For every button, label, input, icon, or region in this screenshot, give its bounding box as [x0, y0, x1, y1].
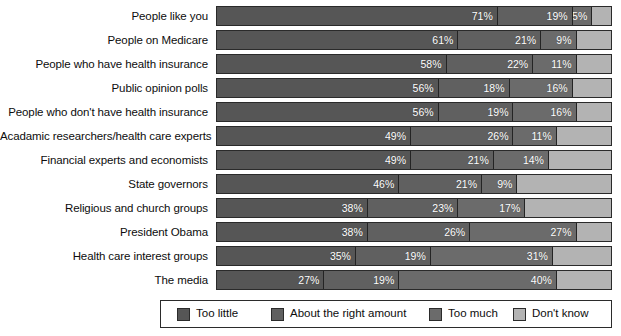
stacked-bar-chart: People like you71%19%5%People on Medicar… — [0, 0, 621, 336]
bar-segment: 56% — [217, 79, 438, 97]
bar-segment: 22% — [446, 55, 533, 73]
chart-row: People who don't have health insurance56… — [0, 100, 621, 124]
chart-row: People who have health insurance58%22%11… — [0, 52, 621, 76]
bar-segment-value: 9% — [556, 35, 575, 46]
bar-segment-value: 27% — [551, 227, 576, 238]
bar-segment — [576, 103, 611, 121]
row-category-label: Acadamic researchers/health care experts — [0, 124, 208, 148]
bar-segment-value: 21% — [515, 35, 540, 46]
bar-segment: 11% — [512, 127, 555, 145]
bar-segment-value: 21% — [468, 155, 493, 166]
chart-row: Acadamic researchers/health care experts… — [0, 124, 621, 148]
bar-segment-value: 61% — [432, 35, 457, 46]
bar-segment-value: 35% — [330, 251, 355, 262]
bar-segment: 16% — [509, 79, 572, 97]
bar-segment-value: 56% — [413, 107, 438, 118]
chart-plot-area: People like you71%19%5%People on Medicar… — [0, 4, 621, 292]
bar-segment-value: 22% — [507, 59, 532, 70]
legend-item[interactable]: About the right amount — [271, 301, 406, 327]
bar-segment: 58% — [217, 55, 446, 73]
bar-segment-value: 40% — [531, 275, 556, 286]
bar-segment-value: 49% — [385, 131, 410, 142]
bar-segment — [556, 271, 611, 289]
row-category-label: State governors — [0, 172, 208, 196]
bar-segment: 19% — [355, 247, 430, 265]
stacked-bar: 38%26%27% — [216, 222, 612, 242]
legend-swatch-icon — [271, 308, 284, 321]
bar-segment-value: 19% — [373, 275, 398, 286]
bar-segment-value: 49% — [385, 155, 410, 166]
bar-segment-value: 11% — [532, 131, 556, 142]
bar-segment-value: 38% — [342, 203, 367, 214]
bar-segment: 38% — [217, 199, 367, 217]
row-category-label: Financial experts and economists — [0, 148, 208, 172]
legend-label: Too little — [196, 308, 238, 320]
bar-segment: 21% — [457, 31, 540, 49]
bar-segment: 19% — [438, 103, 513, 121]
bar-segment-value: 19% — [487, 107, 512, 118]
bar-segment-value: 17% — [499, 203, 524, 214]
bar-segment — [591, 7, 611, 25]
legend-item[interactable]: Too much — [429, 301, 498, 327]
bar-segment: 18% — [438, 79, 509, 97]
bar-segment: 38% — [217, 223, 367, 241]
bar-segment — [576, 55, 611, 73]
bar-segment: 56% — [217, 103, 438, 121]
bar-segment — [576, 223, 611, 241]
bar-segment-value: 21% — [456, 179, 481, 190]
bar-segment-value: 27% — [298, 275, 323, 286]
chart-row: People on Medicare61%21%9% — [0, 28, 621, 52]
bar-segment-value: 9% — [497, 179, 516, 190]
stacked-bar: 35%19%31% — [216, 246, 612, 266]
bar-segment: 21% — [410, 151, 493, 169]
bar-segment-value: 38% — [342, 227, 367, 238]
bar-segment: 40% — [398, 271, 556, 289]
row-category-label: Public opinion polls — [0, 76, 208, 100]
stacked-bar: 56%18%16% — [216, 78, 612, 98]
bar-segment: 61% — [217, 31, 457, 49]
row-category-label: Religious and church groups — [0, 196, 208, 220]
chart-row: People like you71%19%5% — [0, 4, 621, 28]
stacked-bar: 49%26%11% — [216, 126, 612, 146]
bar-segment-value: 5% — [572, 11, 591, 22]
stacked-bar: 49%21%14% — [216, 150, 612, 170]
chart-row: The media27%19%40% — [0, 268, 621, 292]
bar-segment: 17% — [457, 199, 524, 217]
bar-segment-value: 19% — [405, 251, 430, 262]
bar-segment: 71% — [217, 7, 497, 25]
bar-segment: 19% — [323, 271, 398, 289]
bar-segment — [524, 199, 611, 217]
legend-item[interactable]: Too little — [177, 301, 238, 327]
stacked-bar: 38%23%17% — [216, 198, 612, 218]
legend-item[interactable]: Don't know — [513, 301, 589, 327]
bar-segment — [576, 31, 611, 49]
row-category-label: People like you — [0, 4, 208, 28]
bar-segment-value: 26% — [444, 227, 469, 238]
chart-legend: Too littleAbout the right amountToo much… — [160, 300, 612, 328]
bar-segment-value: 14% — [523, 155, 548, 166]
bar-segment-value: 19% — [547, 11, 572, 22]
bar-segment-value: 16% — [547, 83, 572, 94]
bar-segment: 16% — [512, 103, 575, 121]
bar-segment: 9% — [540, 31, 575, 49]
stacked-bar: 56%19%16% — [216, 102, 612, 122]
bar-segment — [548, 151, 611, 169]
stacked-bar: 58%22%11% — [216, 54, 612, 74]
bar-segment: 49% — [217, 127, 410, 145]
bar-segment-value: 18% — [484, 83, 509, 94]
bar-segment: 19% — [497, 7, 572, 25]
bar-segment: 26% — [367, 223, 469, 241]
legend-swatch-icon — [177, 308, 190, 321]
bar-segment: 14% — [493, 151, 548, 169]
bar-segment — [516, 175, 611, 193]
bar-segment-value: 26% — [487, 131, 512, 142]
chart-row: Religious and church groups38%23%17% — [0, 196, 621, 220]
bar-segment-value: 58% — [421, 59, 446, 70]
bar-segment: 26% — [410, 127, 512, 145]
chart-row: President Obama38%26%27% — [0, 220, 621, 244]
bar-segment-value: 56% — [413, 83, 438, 94]
row-category-label: People on Medicare — [0, 28, 208, 52]
bar-segment-value: 23% — [432, 203, 457, 214]
row-category-label: President Obama — [0, 220, 208, 244]
row-category-label: The media — [0, 268, 208, 292]
